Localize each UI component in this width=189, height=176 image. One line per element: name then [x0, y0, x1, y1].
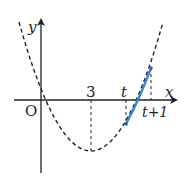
arc-start-point [124, 122, 128, 126]
vertex-x-label: 3 [86, 83, 96, 101]
t-label: t [121, 83, 128, 101]
t-plus-1-label: t+1 [142, 104, 168, 120]
x-axis-label: x [165, 83, 174, 101]
y-axis-label: y [27, 18, 37, 36]
parabola-diagram: y x O 3 t t+1 [0, 0, 189, 176]
origin-label: O [25, 102, 37, 120]
arc-end-point [149, 66, 153, 70]
